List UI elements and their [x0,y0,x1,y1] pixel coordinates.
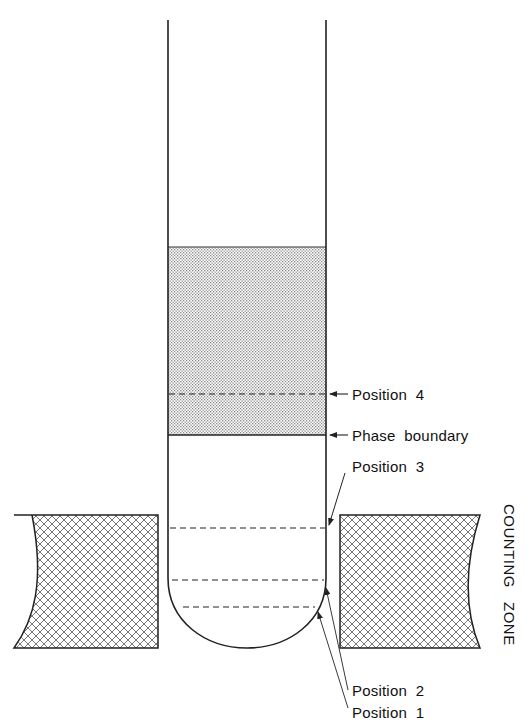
diagram-canvas [0,0,532,728]
position-1-label: Position 1 [352,705,424,720]
upper-phase-region [168,247,326,435]
right-detector-block [340,515,480,648]
left-detector-block [14,515,158,648]
position-4-label: Position 4 [352,387,424,402]
position-3-label: Position 3 [352,459,424,474]
position-2-label: Position 2 [352,683,424,698]
counting-zone-label: COUNTING ZONE [502,504,517,646]
phase-boundary-label: Phase boundary [352,428,468,443]
